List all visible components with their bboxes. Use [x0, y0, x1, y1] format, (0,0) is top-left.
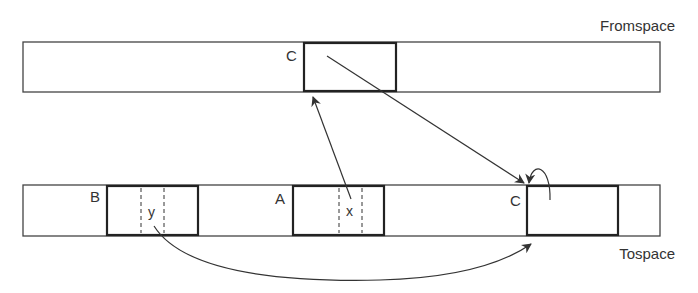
field-y-label: y [148, 204, 155, 220]
fromspace-label: Fromspace [600, 17, 675, 34]
field-x-label: x [346, 203, 353, 219]
tospace-label: Tospace [619, 245, 675, 262]
diagram-canvas [0, 0, 698, 293]
fromspace-object-c [304, 43, 396, 91]
arrow-x-to-fromspace-c [313, 97, 351, 199]
tospace-object-c-label: C [510, 192, 521, 209]
tospace-object-b-label: B [90, 188, 100, 205]
tospace-object-a-label: A [275, 190, 285, 207]
tospace-object-c [527, 186, 618, 235]
fromspace-object-c-label: C [286, 47, 297, 64]
